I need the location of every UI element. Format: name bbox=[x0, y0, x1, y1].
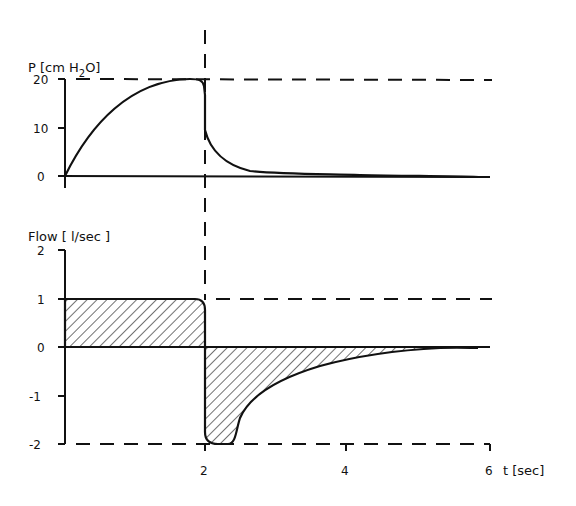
p-tick-20: 20 bbox=[33, 73, 48, 87]
p-tick-0: 0 bbox=[37, 170, 45, 184]
pressure-curve bbox=[65, 79, 478, 177]
flow-tick-0: 0 bbox=[37, 341, 45, 355]
x-tick-6: 6 bbox=[485, 464, 493, 478]
x-tick-4: 4 bbox=[341, 464, 349, 478]
inspiratory-flow-area bbox=[65, 299, 205, 347]
x-tick-2: 2 bbox=[200, 464, 208, 478]
p-tick-10: 10 bbox=[33, 122, 48, 136]
flow-axis-label: Flow [ l/sec ] bbox=[28, 229, 110, 244]
flow-panel: Flow [ l/sec ] 2 1 0 -1 -2 2 4 6 t [sec] bbox=[28, 229, 544, 478]
flow-tick-1: 1 bbox=[37, 293, 45, 307]
flow-tick-neg2: -2 bbox=[29, 438, 41, 452]
flow-tick-2: 2 bbox=[37, 244, 45, 258]
respiratory-chart: P [cm H2O] 20 10 0 Flow [ l/sec ] 2 1 0 … bbox=[0, 0, 576, 506]
p20-reference-line bbox=[76, 79, 492, 80]
flow-tick-neg1: -1 bbox=[29, 390, 41, 404]
pressure-panel: P [cm H2O] 20 10 0 bbox=[28, 60, 492, 188]
time-axis-label: t [sec] bbox=[503, 463, 544, 478]
